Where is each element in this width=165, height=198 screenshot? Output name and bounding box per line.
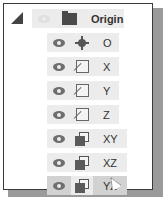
eye-icon[interactable] xyxy=(53,87,65,95)
eye-icon[interactable] xyxy=(53,135,65,143)
tree-node-origin[interactable]: Origin xyxy=(32,9,124,28)
collapse-triangle-icon[interactable] xyxy=(11,12,23,24)
axis-icon xyxy=(76,84,89,97)
plane-icon xyxy=(75,179,89,193)
tree-node-label: X xyxy=(103,61,110,73)
axis-icon xyxy=(76,108,89,121)
tree-node-label: Z xyxy=(103,109,110,121)
tree-node-origin-point[interactable]: O xyxy=(47,33,119,52)
tree-node-label: XY xyxy=(103,133,118,145)
tree-node-y-axis[interactable]: Y xyxy=(47,81,119,100)
tree-node-xz-plane[interactable]: XZ xyxy=(47,153,127,172)
tree-node-label: Y xyxy=(103,85,110,97)
eye-icon[interactable] xyxy=(53,182,65,190)
point-icon xyxy=(75,36,89,50)
axis-icon xyxy=(76,60,89,73)
eye-icon[interactable] xyxy=(53,63,65,71)
plane-icon xyxy=(75,156,89,170)
eye-icon[interactable] xyxy=(53,39,65,47)
tree-node-x-axis[interactable]: X xyxy=(47,57,119,76)
tree-node-label: O xyxy=(103,37,112,49)
eye-hidden-icon[interactable] xyxy=(38,15,50,23)
eye-icon[interactable] xyxy=(53,159,65,167)
eye-icon[interactable] xyxy=(53,111,65,119)
tree-node-xy-plane[interactable]: XY xyxy=(47,129,127,148)
tree-node-z-axis[interactable]: Z xyxy=(47,105,119,124)
plane-icon xyxy=(75,132,89,146)
folder-icon xyxy=(62,13,77,25)
tree-node-label: Origin xyxy=(91,13,123,25)
tree-node-label: XZ xyxy=(103,157,117,169)
